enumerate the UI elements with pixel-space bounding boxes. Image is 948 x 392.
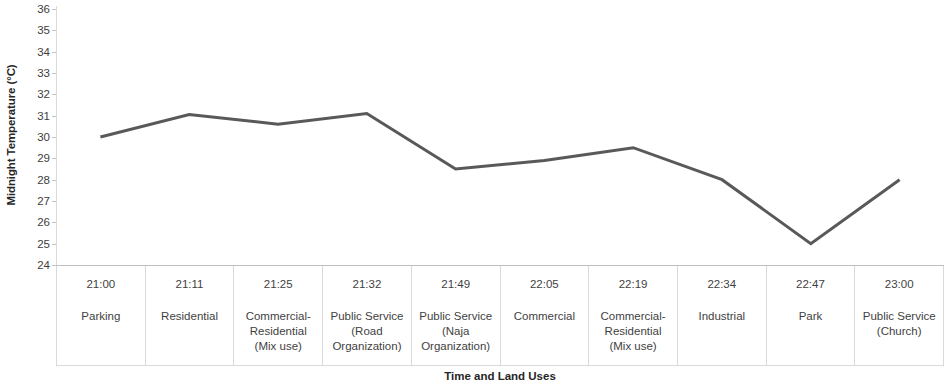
category-cell: 22:19Commercial- Residential (Mix use) <box>589 266 678 365</box>
y-tick-label-text: 35 <box>26 24 50 36</box>
category-land-use-label: Public Service (Church) <box>861 309 938 339</box>
category-time-label: 22:34 <box>707 277 736 291</box>
y-tick-label-text: 33 <box>26 67 50 79</box>
category-time-label: 22:19 <box>619 277 648 291</box>
category-cell: 21:11Residential <box>146 266 235 365</box>
category-land-use-label: Commercial <box>512 309 577 324</box>
category-cell: 21:32Public Service (Road Organization) <box>323 266 412 365</box>
y-axis-line <box>56 6 57 266</box>
y-tick-label-text: 32 <box>26 88 50 100</box>
chart-container: Midnight Temperature (°C) 36353433323130… <box>0 0 948 392</box>
category-time-label: 21:11 <box>176 277 204 291</box>
category-land-use-label: Public Service (Road Organization) <box>329 309 406 354</box>
category-cell: 21:25Commercial- Residential (Mix use) <box>234 266 323 365</box>
category-time-label: 23:00 <box>885 277 914 291</box>
y-tick-label-text: 30 <box>26 131 50 143</box>
y-tick-label-text: 25 <box>26 238 50 250</box>
category-land-use-label: Residential <box>159 309 220 324</box>
y-tick-label-text: 36 <box>26 3 50 15</box>
category-land-use-label: Commercial- Residential (Mix use) <box>244 309 313 354</box>
category-time-label: 21:49 <box>441 277 470 291</box>
category-cell: 21:49Public Service (Naja Organization) <box>412 266 501 365</box>
category-cell: 22:47Park <box>767 266 856 365</box>
category-land-use-label: Industrial <box>696 309 747 324</box>
y-tick-label-text: 28 <box>26 174 50 186</box>
category-land-use-label: Park <box>797 309 825 324</box>
category-time-label: 22:47 <box>796 277 825 291</box>
y-tick-label-text: 24 <box>26 259 50 271</box>
y-tick-label-text: 26 <box>26 216 50 228</box>
y-axis-ticks: 36353433323130292827262524 <box>0 0 56 275</box>
y-tick-label-text: 27 <box>26 195 50 207</box>
category-cell: 22:05Commercial <box>501 266 590 365</box>
category-cell: 23:00Public Service (Church) <box>855 266 943 365</box>
category-time-label: 21:25 <box>264 277 293 291</box>
y-tick-label-text: 29 <box>26 152 50 164</box>
category-cell: 22:34Industrial <box>678 266 767 365</box>
x-axis-category-table: 21:00Parking21:11Residential21:25Commerc… <box>56 266 944 366</box>
y-tick-label-text: 31 <box>26 110 50 122</box>
y-tick-label-text: 34 <box>26 46 50 58</box>
category-time-label: 21:32 <box>353 277 382 291</box>
data-line-series <box>0 0 948 275</box>
category-time-label: 22:05 <box>530 277 559 291</box>
category-time-label: 21:00 <box>86 277 115 291</box>
x-axis-title: Time and Land Uses <box>56 370 944 382</box>
category-cell: 21:00Parking <box>57 266 146 365</box>
category-land-use-label: Commercial- Residential (Mix use) <box>598 309 667 354</box>
category-land-use-label: Parking <box>79 309 122 324</box>
category-land-use-label: Public Service (Naja Organization) <box>417 309 494 354</box>
